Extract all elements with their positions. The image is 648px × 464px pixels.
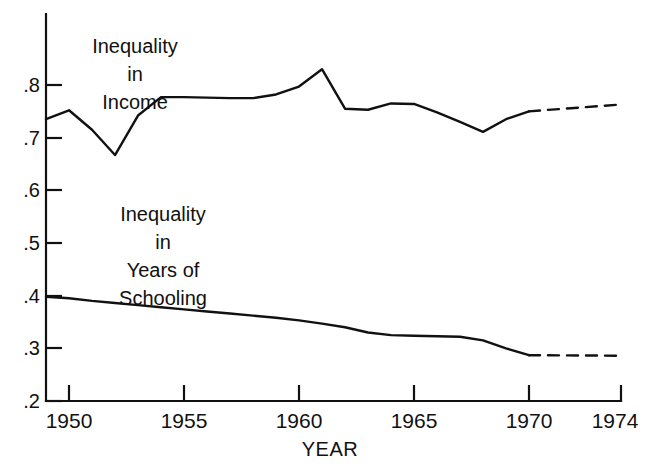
series-income-projection [529,104,621,111]
income-label-line-1: in [127,63,143,85]
income-label-line-2: Income [102,91,168,113]
series-schooling-projection [529,355,621,356]
y-tick-label-0: .2 [23,390,40,412]
annotation-schooling: Inequality in Years of Schooling [119,203,207,309]
line-chart: .2 .3 .4 .5 .6 .7 .8 1950 1955 1960 1965… [0,0,648,464]
x-tick-label-1970: 1970 [506,409,553,432]
schooling-label-line-1: in [155,231,171,253]
schooling-label-line-3: Schooling [119,287,207,309]
x-axis-tick-labels: 1950 1955 1960 1965 1970 1974 [46,409,639,432]
y-tick-label-1: .3 [23,337,40,359]
schooling-label-line-2: Years of [127,259,200,281]
y-axis-ticks [46,85,62,401]
x-tick-label-1965: 1965 [391,409,438,432]
income-label-line-0: Inequality [92,35,178,57]
chart-container: .2 .3 .4 .5 .6 .7 .8 1950 1955 1960 1965… [0,0,648,464]
y-tick-label-4: .6 [23,179,40,201]
y-axis-tick-labels: .2 .3 .4 .5 .6 .7 .8 [23,74,40,412]
x-tick-label-1950: 1950 [46,409,93,432]
x-axis-ticks [69,385,621,401]
annotation-income: Inequality in Income [92,35,178,113]
y-tick-label-3: .5 [23,232,40,254]
schooling-label-line-0: Inequality [120,203,206,225]
y-tick-label-2: .4 [23,285,40,307]
y-tick-label-5: .7 [23,127,40,149]
x-tick-label-1960: 1960 [276,409,323,432]
x-axis-title: YEAR [302,438,358,460]
x-tick-label-1955: 1955 [161,409,208,432]
x-tick-label-1974: 1974 [592,409,639,432]
y-tick-label-6: .8 [23,74,40,96]
